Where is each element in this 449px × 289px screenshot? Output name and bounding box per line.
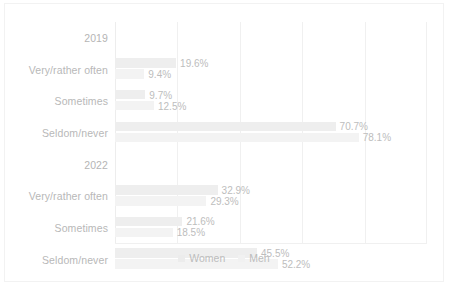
bar-men[interactable]: 9.4% bbox=[115, 69, 144, 79]
chart-container: 2019 Very/rather often 19.6% 9.4% Someti… bbox=[4, 3, 444, 282]
plot-area: 2019 Very/rather often 19.6% 9.4% Someti… bbox=[115, 22, 427, 244]
bar-value-women: 70.7% bbox=[340, 121, 368, 132]
bar-women[interactable]: 9.7% bbox=[115, 90, 145, 100]
bar-value-men: 12.5% bbox=[158, 100, 186, 111]
bar-men[interactable]: 29.3% bbox=[115, 196, 206, 206]
axis-category-label: Sometimes bbox=[55, 222, 108, 234]
bar-women[interactable]: 19.6% bbox=[115, 58, 176, 68]
bar-women[interactable]: 32.9% bbox=[115, 185, 218, 195]
axis-group-label-2019: 2019 bbox=[84, 32, 108, 44]
bar-value-women: 9.7% bbox=[149, 89, 172, 100]
bar-men[interactable]: 78.1% bbox=[115, 133, 359, 143]
bar-group: 19.6% 9.4% bbox=[115, 54, 427, 86]
bar-value-women: 21.6% bbox=[186, 216, 214, 227]
legend-label-women: Women bbox=[189, 252, 225, 264]
bar-women[interactable]: 70.7% bbox=[115, 122, 336, 132]
legend-swatch-women-icon bbox=[178, 255, 185, 262]
bar-value-women: 32.9% bbox=[222, 184, 250, 195]
legend-swatch-men-icon bbox=[238, 255, 245, 262]
bar-value-men: 9.4% bbox=[148, 68, 171, 79]
axis-row-2019-very-rather-often: Very/rather often 19.6% 9.4% bbox=[115, 54, 427, 86]
bar-men[interactable]: 18.5% bbox=[115, 228, 173, 238]
axis-group-label-2022: 2022 bbox=[84, 159, 108, 171]
bar-group: 9.7% 12.5% bbox=[115, 85, 427, 117]
axis-row-2019-sometimes: Sometimes 9.7% 12.5% bbox=[115, 85, 427, 117]
bar-value-men: 78.1% bbox=[363, 132, 391, 143]
legend-item-women[interactable]: Women bbox=[178, 252, 225, 264]
legend-item-men[interactable]: Men bbox=[238, 252, 269, 264]
bar-men[interactable]: 12.5% bbox=[115, 101, 154, 111]
bar-group: 32.9% 29.3% bbox=[115, 181, 427, 213]
bar-women[interactable]: 21.6% bbox=[115, 217, 182, 227]
bar-value-men: 18.5% bbox=[177, 227, 205, 238]
bar-value-women: 19.6% bbox=[180, 57, 208, 68]
axis-category-label: Sometimes bbox=[55, 95, 108, 107]
axis-row-2019-seldom-never: Seldom/never 70.7% 78.1% bbox=[115, 117, 427, 149]
bar-group: 70.7% 78.1% bbox=[115, 117, 427, 149]
axis-category-label: Seldom/never bbox=[42, 127, 108, 139]
legend-label-men: Men bbox=[249, 252, 269, 264]
bar-group: 21.6% 18.5% bbox=[115, 212, 427, 244]
bar-value-men: 29.3% bbox=[210, 195, 238, 206]
axis-row-group-2019: 2019 bbox=[115, 22, 427, 54]
axis-row-2022-very-rather-often: Very/rather often 32.9% 29.3% bbox=[115, 181, 427, 213]
chart-legend: Women Men bbox=[5, 252, 443, 264]
axis-row-group-2022: 2022 bbox=[115, 149, 427, 181]
axis-category-label: Very/rather often bbox=[29, 64, 108, 76]
axis-row-2022-sometimes: Sometimes 21.6% 18.5% bbox=[115, 212, 427, 244]
axis-category-label: Very/rather often bbox=[29, 190, 108, 202]
